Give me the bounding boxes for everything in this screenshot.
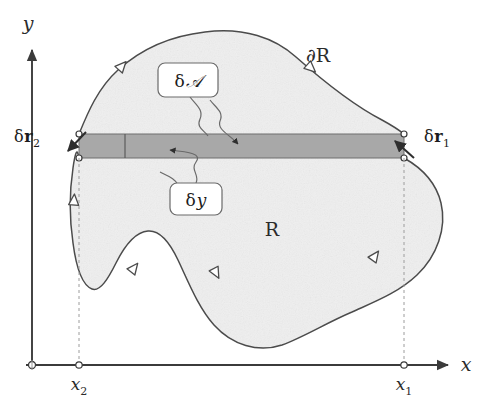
tick-label-x1-base: x xyxy=(396,374,406,394)
tick-label-x2-sub: 2 xyxy=(80,385,87,398)
delta-r1-sub-glyph: 1 xyxy=(443,137,450,150)
delta-y-label: δy xyxy=(186,190,207,210)
region-area-element-diagram: δ𝒜 δy y x x2 x1 R ∂R δr1 δr2 xyxy=(0,0,490,409)
delta-r2-r-glyph: r xyxy=(24,127,33,146)
tick-marker-x2 xyxy=(76,362,82,368)
tick-label-x2-base: x xyxy=(71,374,81,394)
boundary-label-partial-glyph: ∂ xyxy=(306,44,316,66)
strip-marker-right-top xyxy=(401,131,407,137)
tick-marker-x1 xyxy=(401,362,407,368)
delta-area-delta-glyph: δ xyxy=(174,71,184,91)
area-strip xyxy=(79,134,404,158)
y-axis-label: y xyxy=(22,12,34,34)
region-shape xyxy=(70,31,442,348)
region-boundary-label: ∂R xyxy=(306,44,331,66)
delta-y-delta-glyph: δ xyxy=(186,190,196,210)
tick-label-x1: x1 xyxy=(396,374,413,398)
x-axis-label: x xyxy=(461,353,472,375)
region-interior-fill xyxy=(70,31,442,348)
delta-r1-delta-glyph: δ xyxy=(424,127,434,146)
region-interior-label: R xyxy=(265,218,280,240)
orientation-arrow-5 xyxy=(127,260,142,275)
delta-r2-label: δr2 xyxy=(14,127,40,150)
strip-rect xyxy=(79,134,404,158)
delta-r1-label: δr1 xyxy=(424,127,450,150)
delta-r2-delta-glyph: δ xyxy=(14,127,24,146)
delta-r2-sub-glyph: 2 xyxy=(33,137,40,150)
delta-r1-r-glyph: r xyxy=(434,127,443,146)
tick-label-x1-sub: 1 xyxy=(405,385,412,398)
tick-label-x2: x2 xyxy=(71,374,88,398)
boundary-label-name-glyph: R xyxy=(316,44,331,66)
delta-y-symbol-glyph: y xyxy=(196,190,207,210)
